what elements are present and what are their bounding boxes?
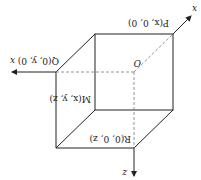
edge-top-diagonal	[56, 34, 95, 72]
labels: x x z O P(x, 0, 0) Q(0, y, 0) M(x, y, z)…	[10, 4, 197, 178]
axis-label-x-diag: x	[192, 4, 197, 14]
label-q: Q(0, y, 0)	[18, 56, 59, 66]
label-r: R(0, 0, z)	[90, 134, 131, 144]
label-origin: O	[133, 58, 141, 68]
box-diagram: x x z O P(x, 0, 0) Q(0, y, 0) M(x, y, z)…	[0, 0, 201, 180]
diagram-canvas: x x z O P(x, 0, 0) Q(0, y, 0) M(x, y, z)…	[0, 0, 201, 180]
label-m: M(x, y, z)	[50, 94, 91, 104]
axis-label-z: z	[122, 168, 128, 178]
axes	[12, 16, 191, 176]
x-axis-diag-arrow	[173, 16, 191, 34]
edge-r-diagonal	[134, 110, 173, 148]
axis-label-x-left: x	[10, 56, 15, 66]
label-p: P(x, 0, 0)	[128, 18, 169, 28]
solid-edges	[56, 34, 173, 148]
